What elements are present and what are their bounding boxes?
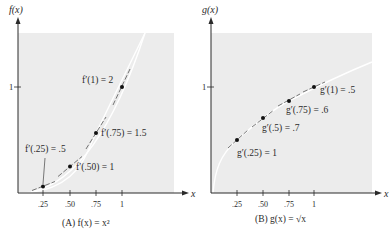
panel-b: g(x) x 1 .25 .50 .75 1 g′(1) = .5 g′(.75… — [202, 4, 389, 225]
panel-a-x-arrow-icon — [182, 191, 189, 196]
panel-b-annotation-g025: g′(.25) = 1 — [237, 148, 277, 159]
panel-b-x-tick-025: .25 — [232, 200, 242, 209]
panel-b-annotation-g05: g′(.5) = .7 — [262, 123, 300, 134]
panel-b-y-axis-label: g(x) — [202, 4, 219, 16]
panel-b-x-arrow-icon — [375, 191, 382, 196]
panel-b-annotation-g1: g′(1) = .5 — [320, 85, 355, 96]
panel-a-annotation-f025: f′(.25) = .5 — [25, 144, 66, 155]
panel-a-y-axis-label: f(x) — [9, 4, 24, 16]
panel-b-y-arrow-icon — [209, 17, 214, 24]
panel-a-y-tick-label: 1 — [9, 82, 13, 92]
panel-a-x-tick-075: .75 — [91, 200, 101, 209]
panel-b-x-tick-050: .50 — [258, 200, 268, 209]
panel-a-x-tick-050: .50 — [65, 200, 75, 209]
panel-b-y-tick-label: 1 — [202, 82, 206, 92]
panel-a-annotation-f075: f′(.75) = 1.5 — [101, 128, 147, 139]
panel-a-annotation-f050: f′(.50) = 1 — [76, 162, 115, 173]
panel-a-x-tick-1: 1 — [120, 200, 124, 209]
panel-b-caption: (B) g(x) = √x — [255, 214, 306, 225]
panel-b-x-tick-1: 1 — [312, 200, 316, 209]
panel-a-x-tick-025: .25 — [38, 200, 48, 209]
panel-b-annotation-g075: g′(.75) = .6 — [286, 105, 329, 116]
panel-a-y-arrow-icon — [16, 17, 21, 24]
figure: f(x) x 1 .25 .50 .75 1 f′(1) = 2 f′(.75)… — [0, 0, 389, 234]
panel-a-caption: (A) f(x) = x² — [62, 218, 110, 229]
panel-a-x-axis-label: x — [190, 188, 196, 199]
panel-b-x-axis-label: x — [383, 188, 389, 199]
panel-a: f(x) x 1 .25 .50 .75 1 f′(1) = 2 f′(.75)… — [9, 4, 196, 229]
panel-a-annotation-f1: f′(1) = 2 — [82, 75, 113, 86]
panel-b-x-tick-075: .75 — [284, 200, 294, 209]
